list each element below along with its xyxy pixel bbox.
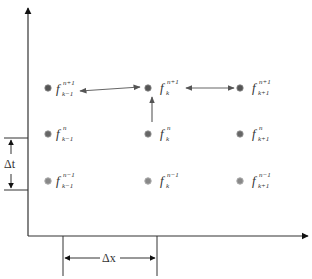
- svg-text:n+1: n+1: [259, 78, 271, 86]
- node-dot-k-nm1: [145, 178, 151, 184]
- node-dot-k-np1: [145, 85, 151, 91]
- svg-text:k+1: k+1: [258, 182, 269, 190]
- dx-label: Δx: [102, 251, 116, 265]
- svg-text:k−1: k−1: [62, 90, 73, 98]
- label-f-kp1-nm1: f n−1 k+1: [252, 171, 271, 190]
- label-f-kp1-np1: f n+1 k+1: [252, 78, 271, 97]
- dt-label: Δt: [4, 157, 16, 171]
- node-dot-km1-np1: [45, 85, 51, 91]
- node-dot-kp1-np1: [237, 85, 243, 91]
- svg-text:k−1: k−1: [62, 135, 73, 143]
- svg-text:n+1: n+1: [63, 79, 75, 87]
- svg-text:k−1: k−1: [62, 182, 73, 190]
- label-f-k-nm1: f n−1 k: [160, 171, 179, 190]
- svg-text:k+1: k+1: [258, 135, 269, 143]
- node-dot-kp1-n: [237, 131, 243, 137]
- arrow-left-to-center-top: [80, 87, 140, 91]
- label-f-k-np1: f n+1 k: [160, 78, 179, 97]
- label-f-k-n: f n k: [160, 124, 171, 143]
- svg-text:k+1: k+1: [258, 89, 269, 97]
- node-dot-km1-n: [45, 131, 51, 137]
- svg-text:n−1: n−1: [63, 171, 75, 179]
- label-f-km1-nm1: f n−1 k−1: [56, 171, 75, 190]
- label-f-kp1-n: f n k+1: [252, 124, 269, 143]
- svg-text:n+1: n+1: [167, 78, 179, 86]
- dt-dimension: Δt: [4, 138, 28, 190]
- label-f-km1-np1: f n+1 k−1: [56, 79, 75, 98]
- svg-text:n−1: n−1: [259, 171, 271, 179]
- svg-text:k: k: [166, 89, 170, 97]
- stencil-diagram: Δt Δx f n+1 k−1 f n+1 k f n+1 k+: [0, 0, 312, 279]
- svg-text:k: k: [166, 182, 170, 190]
- svg-text:n: n: [259, 124, 263, 132]
- node-dot-km1-nm1: [45, 178, 51, 184]
- node-dot-k-n: [145, 131, 151, 137]
- svg-text:n: n: [167, 124, 171, 132]
- svg-text:n: n: [63, 124, 67, 132]
- node-dot-kp1-nm1: [237, 178, 243, 184]
- svg-text:k: k: [166, 135, 170, 143]
- dx-dimension: Δx: [63, 236, 157, 276]
- label-f-km1-n: f n k−1: [56, 124, 73, 143]
- svg-text:n−1: n−1: [167, 171, 179, 179]
